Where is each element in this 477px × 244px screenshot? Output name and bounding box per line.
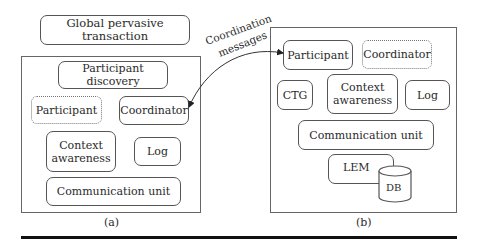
bottom-rule [21,236,457,239]
coordination-arrow: Coordination messages [0,0,477,244]
